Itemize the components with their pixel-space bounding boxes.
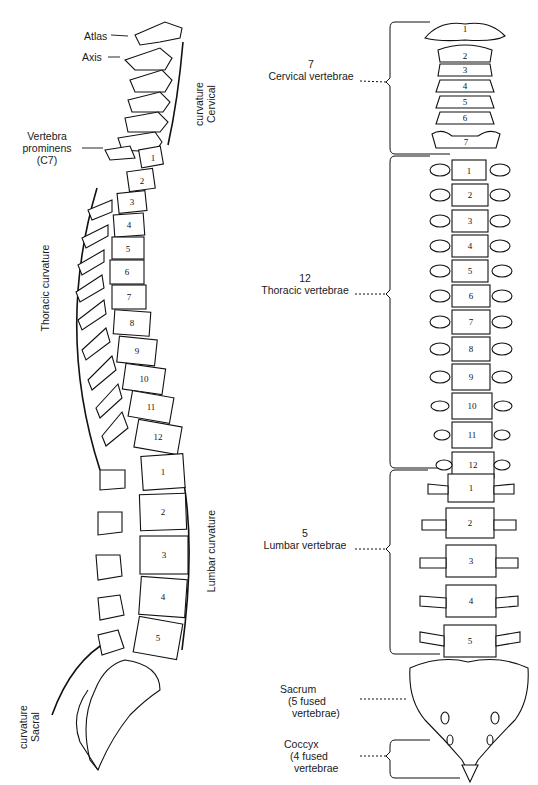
svg-text:6: 6 (463, 113, 468, 123)
svg-text:4: 4 (463, 81, 468, 91)
svg-text:2: 2 (161, 507, 166, 517)
label-cervical-vertebrae: 7 Cervical vertebrae (265, 58, 357, 82)
svg-text:1: 1 (467, 166, 472, 176)
svg-text:5: 5 (468, 636, 473, 646)
svg-text:12: 12 (469, 460, 478, 470)
label-lumbar-vertebrae: 5 Lumbar vertebrae (255, 527, 355, 551)
label-lumbar-curvature: Lumbar curvature (205, 501, 217, 601)
svg-text:4: 4 (468, 241, 473, 251)
svg-text:11: 11 (147, 402, 156, 412)
svg-text:3: 3 (468, 216, 473, 226)
svg-text:9: 9 (135, 346, 140, 356)
label-vertebra-prominens: Vertebra prominens (C7) (12, 130, 82, 166)
svg-text:5: 5 (463, 97, 468, 107)
svg-text:3: 3 (469, 556, 474, 566)
svg-text:1: 1 (469, 483, 474, 493)
svg-text:12: 12 (154, 432, 163, 442)
svg-text:5: 5 (126, 244, 131, 254)
svg-text:9: 9 (469, 372, 474, 382)
svg-text:7: 7 (464, 137, 469, 147)
label-sacrum: Sacrum (5 fused vertebrae) (280, 683, 340, 719)
label-atlas: Atlas (84, 30, 107, 42)
svg-text:4: 4 (161, 592, 166, 602)
svg-text:3: 3 (463, 65, 468, 75)
svg-text:2: 2 (468, 190, 473, 200)
label-axis: Axis (82, 51, 102, 63)
label-thoracic-vertebrae: 12 Thoracic vertebrae (255, 272, 355, 296)
svg-text:10: 10 (468, 401, 478, 411)
svg-text:1: 1 (463, 24, 468, 34)
label-thoracic-curvature: Thoracic curvature (39, 238, 51, 338)
svg-text:7: 7 (469, 317, 474, 327)
svg-text:3: 3 (130, 197, 135, 207)
svg-text:3: 3 (162, 550, 167, 560)
svg-text:8: 8 (130, 318, 135, 328)
svg-text:4: 4 (469, 596, 474, 606)
svg-text:6: 6 (469, 291, 474, 301)
svg-text:2: 2 (140, 176, 145, 186)
svg-text:5: 5 (468, 266, 473, 276)
svg-text:6: 6 (125, 267, 130, 277)
svg-text:5: 5 (156, 633, 161, 643)
svg-text:10: 10 (140, 374, 150, 384)
label-cervical-curvature: curvature Cervical (193, 69, 217, 139)
svg-text:1: 1 (151, 153, 156, 163)
svg-text:4: 4 (127, 220, 132, 230)
svg-text:11: 11 (468, 430, 477, 440)
svg-text:2: 2 (463, 51, 468, 61)
svg-text:8: 8 (469, 344, 474, 354)
svg-text:2: 2 (468, 518, 473, 528)
label-coccyx: Coccyx (4 fused vertebrae (284, 738, 338, 774)
lateral-lumbar-bodies (133, 454, 188, 660)
spine-illustration: 12 345 678 91011 12 123 45 123 456 7 123… (0, 0, 538, 785)
label-sacral-curvature: curvature Sacral (17, 692, 41, 762)
svg-text:7: 7 (127, 292, 132, 302)
svg-text:1: 1 (161, 467, 166, 477)
